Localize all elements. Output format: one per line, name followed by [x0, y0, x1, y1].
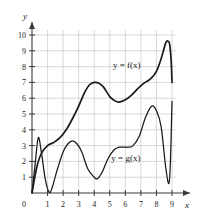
curve-g-label: y = g(x) — [111, 153, 140, 163]
x-tick-label: 9 — [170, 200, 174, 209]
x-tick-label: 8 — [154, 200, 158, 209]
figure-background — [0, 0, 198, 224]
y-tick-label: 7 — [22, 78, 26, 87]
x-tick-label: 2 — [61, 200, 65, 209]
y-tick-label: 4 — [22, 126, 26, 135]
y-tick-label: 1 — [22, 173, 26, 182]
y-tick-label: 2 — [22, 157, 26, 166]
y-tick-label: 6 — [22, 94, 26, 103]
y-tick-label: 9 — [22, 47, 26, 56]
y-tick-label: 5 — [22, 110, 26, 119]
y-axis-label: y — [22, 11, 27, 21]
x-tick-label: 1 — [46, 200, 50, 209]
curve-f-label: y = f(x) — [113, 60, 141, 70]
function-graph-svg: 123456789 12345678910 y x 0 y = f(x) y =… — [0, 0, 198, 224]
x-tick-label: 4 — [92, 200, 96, 209]
figure-container: 123456789 12345678910 y x 0 y = f(x) y =… — [0, 0, 198, 224]
x-tick-label: 3 — [77, 200, 81, 209]
y-tick-label: 8 — [22, 63, 26, 72]
origin-label: 0 — [22, 200, 26, 209]
x-tick-label: 7 — [139, 200, 143, 209]
x-tick-label: 5 — [108, 200, 112, 209]
y-tick-label: 10 — [18, 31, 26, 40]
x-tick-label: 6 — [123, 200, 127, 209]
x-axis-label: x — [184, 200, 189, 210]
y-tick-label: 3 — [22, 142, 26, 151]
